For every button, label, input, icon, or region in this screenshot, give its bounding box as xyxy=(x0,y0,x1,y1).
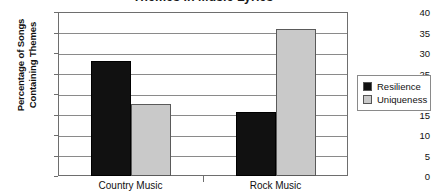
y-axis-tick-mark xyxy=(54,176,58,177)
bar-uniqueness-rock-music xyxy=(276,29,316,176)
legend-label-uniqueness: Uniqueness xyxy=(377,94,427,105)
y-axis-tick-mark xyxy=(54,156,58,157)
legend-item-uniqueness[interactable]: Uniqueness xyxy=(363,93,426,106)
y-axis-tick-mark xyxy=(54,74,58,75)
y-axis-title-line-1: Percentage of Songs xyxy=(15,0,27,145)
bar-resilience-rock-music xyxy=(236,112,276,176)
chart-legend: Resilience Uniqueness xyxy=(357,75,431,111)
y-axis-title: Percentage of Songs Containing Themes xyxy=(15,0,41,145)
legend-label-resilience: Resilience xyxy=(377,81,421,92)
y-axis-tick-label: 30 xyxy=(406,48,430,59)
y-axis-tick-mark xyxy=(54,94,58,95)
legend-item-resilience[interactable]: Resilience xyxy=(363,80,426,93)
y-axis-tick-mark xyxy=(54,53,58,54)
y-axis-tick-mark xyxy=(54,115,58,116)
bar-resilience-country-music xyxy=(91,61,131,176)
chart-title: Themes in Music Lyrics xyxy=(58,0,348,6)
x-axis-tick-label: Country Music xyxy=(58,180,203,191)
chart-figure: Themes in Music Lyrics Percentage of Son… xyxy=(0,0,433,192)
y-axis-tick-label: 40 xyxy=(406,7,430,18)
y-axis-tick-mark xyxy=(54,33,58,34)
y-axis-title-line-2: Containing Themes xyxy=(27,0,39,145)
y-axis-tick-label: 0 xyxy=(406,171,430,182)
y-axis-tick-label: 35 xyxy=(406,27,430,38)
y-axis-tick-label: 10 xyxy=(406,130,430,141)
x-axis-tick-label: Rock Music xyxy=(203,180,348,191)
y-axis-tick-mark xyxy=(54,12,58,13)
x-axis-category-separator xyxy=(203,176,204,182)
legend-swatch-resilience-icon xyxy=(363,82,372,91)
y-axis-tick-label: 5 xyxy=(406,150,430,161)
bar-uniqueness-country-music xyxy=(131,104,171,176)
legend-swatch-uniqueness-icon xyxy=(363,95,372,104)
y-axis-tick-mark xyxy=(54,135,58,136)
